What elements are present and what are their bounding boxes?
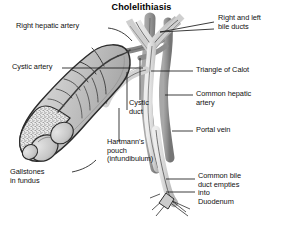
label-hartmanns-pouch: Hartmann's pouch (infundibulum)	[107, 138, 153, 164]
label-right-hepatic-artery: Right hepatic artery	[16, 22, 79, 31]
label-common-bile-duct-duodenum: Common bile duct empties into Duodenum	[198, 172, 241, 206]
label-common-hepatic-artery: Common hepatic artery	[196, 90, 251, 107]
anatomical-illustration	[0, 0, 283, 244]
duodenal-papilla-shape	[150, 193, 190, 216]
label-cystic-artery: Cystic artery	[12, 63, 52, 72]
label-portal-vein: Portal vein	[196, 126, 230, 135]
label-gallstones-in-fundus: Gallstones in fundus	[10, 168, 44, 185]
label-triangle-of-calot: Triangle of Calot	[196, 66, 249, 75]
label-cystic-duct: Cystic duct	[129, 99, 149, 116]
label-right-and-left-bile-ducts: Right and left bile ducts	[218, 14, 261, 31]
